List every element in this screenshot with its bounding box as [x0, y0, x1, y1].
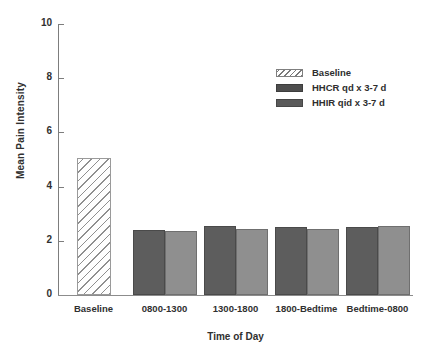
bar: [346, 227, 378, 295]
bar: [165, 231, 197, 295]
chart-legend: BaselineHHCR qd x 3-7 dHHIR qid x 3-7 d: [276, 66, 421, 111]
legend-label: HHIR qid x 3-7 d: [312, 97, 385, 108]
y-axis-tick-label: 4: [28, 180, 52, 191]
bar-group-bars: [129, 24, 200, 295]
legend-label: Baseline: [312, 67, 351, 78]
legend-swatch-3: [276, 99, 303, 107]
bar: [236, 229, 268, 295]
y-axis-tick-label: 10: [28, 17, 52, 28]
y-axis-tick-label: 8: [28, 71, 52, 82]
bar: [275, 227, 307, 295]
bar: [378, 226, 410, 295]
bar-group-bars: [271, 24, 342, 295]
y-axis-title: Mean Pain Intensity: [15, 41, 26, 221]
bar-group: [342, 24, 413, 295]
bar-group-bars: [342, 24, 413, 295]
legend-item: HHIR qid x 3-7 d: [276, 96, 421, 109]
y-axis-tick-label: 2: [28, 234, 52, 245]
bar: [133, 230, 165, 295]
y-axis-tick-label: 6: [28, 125, 52, 136]
legend-swatch-1: [276, 69, 303, 77]
bar-group: [271, 24, 342, 295]
x-axis-line: [58, 295, 413, 296]
bar: [307, 229, 339, 295]
bar: [77, 158, 111, 295]
plot-area: [58, 24, 413, 295]
legend-item: Baseline: [276, 66, 421, 79]
legend-item: HHCR qd x 3-7 d: [276, 81, 421, 94]
x-axis-tick-label: 1300-1800: [200, 303, 271, 314]
bar-group-bars: [200, 24, 271, 295]
y-axis-tick-label: 0: [28, 288, 52, 299]
bar-chart-figure: Mean Pain Intensity 1086420 Time of Day …: [0, 0, 426, 357]
bar-group: [58, 24, 129, 295]
bar: [204, 226, 236, 295]
legend-label: HHCR qd x 3-7 d: [312, 82, 386, 93]
x-axis-tick-label: Bedtime-0800: [342, 303, 413, 314]
bar-group-bars: [58, 24, 129, 295]
bar-group: [200, 24, 271, 295]
x-axis-tick-label: 0800-1300: [129, 303, 200, 314]
x-axis-tick-label: Baseline: [58, 303, 129, 314]
x-axis-tick-label: 1800-Bedtime: [271, 303, 342, 314]
bar-group: [129, 24, 200, 295]
legend-swatch-2: [276, 84, 303, 92]
x-axis-title: Time of Day: [58, 331, 413, 342]
